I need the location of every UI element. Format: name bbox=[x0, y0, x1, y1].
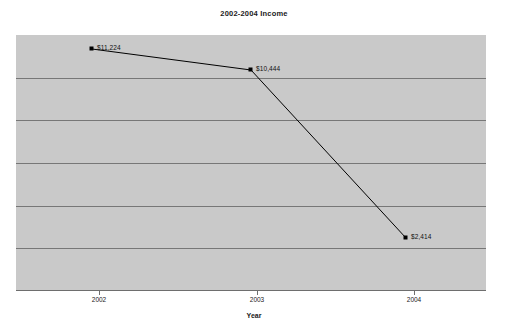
income-line-chart: 2002-2004 Income $11,224 $10,444 $2,414 … bbox=[0, 0, 508, 331]
gridline bbox=[16, 248, 486, 249]
x-axis-tick-label-2003: 2003 bbox=[250, 296, 264, 303]
data-point-label: $11,224 bbox=[97, 44, 121, 51]
x-axis-title: Year bbox=[0, 312, 508, 319]
gridline bbox=[16, 120, 486, 121]
x-axis-tick bbox=[99, 291, 100, 295]
x-axis-tick bbox=[414, 291, 415, 295]
chart-title: 2002-2004 Income bbox=[0, 9, 508, 18]
x-axis-tick-label-2002: 2002 bbox=[92, 296, 106, 303]
x-axis-tick bbox=[257, 291, 258, 295]
gridline bbox=[16, 206, 486, 207]
x-axis-tick-label-2004: 2004 bbox=[407, 296, 421, 303]
data-point-label: $2,414 bbox=[411, 233, 431, 240]
x-axis-line bbox=[16, 290, 486, 291]
plot-area bbox=[16, 35, 486, 290]
gridline bbox=[16, 78, 486, 79]
data-point-label: $10,444 bbox=[256, 65, 280, 72]
gridline bbox=[16, 163, 486, 164]
